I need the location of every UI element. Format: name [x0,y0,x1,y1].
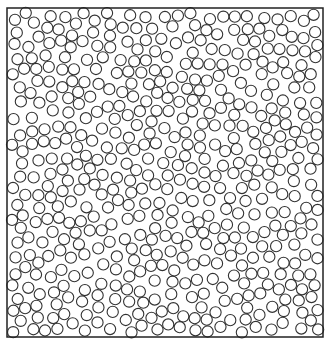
disk [28,172,39,183]
disk [167,21,178,32]
figure-container [0,0,331,348]
disk [234,99,245,110]
disk [129,144,140,155]
disk [267,155,278,166]
disk [217,282,228,293]
disk [12,199,23,210]
disk [47,105,58,116]
disk [305,163,316,174]
disk [23,232,34,243]
disk [191,274,202,285]
disk [289,239,300,250]
disk [156,33,167,44]
disk [8,114,19,125]
disk [198,288,209,299]
disk [146,312,157,323]
disk [248,126,259,137]
disk [11,27,22,38]
disk [267,301,278,312]
disk [218,11,229,22]
disk [309,27,320,38]
disk [293,152,304,163]
disk [96,225,107,236]
disk [26,53,37,64]
disk [101,142,112,153]
disk [7,182,18,193]
disk [174,174,185,185]
disk [237,120,248,131]
disk [312,305,323,316]
disk [149,65,160,76]
disk [217,160,228,171]
disk [65,196,76,207]
disk [280,294,291,305]
disk [152,324,163,335]
disk [162,92,173,103]
disk [256,68,267,79]
disk [293,295,304,306]
disk [126,187,137,198]
disk [229,24,240,35]
disk [246,102,257,113]
disk [246,155,257,166]
disk [112,195,123,206]
disk [210,170,221,181]
disk [272,14,283,25]
disk [43,61,54,72]
disk [275,269,286,280]
disk [30,269,41,280]
disk [277,317,288,328]
disk [229,232,240,243]
disk [214,243,225,254]
disk [84,225,95,236]
disk [209,223,220,234]
disk [204,59,215,70]
disk [30,216,41,227]
disk [193,217,204,228]
disk [211,258,222,269]
disk [106,219,117,230]
disk [87,27,98,38]
disk [278,57,289,68]
disk [15,315,26,326]
disk [220,145,231,156]
disk [97,52,108,63]
disk [81,309,92,320]
disk [287,45,298,56]
disk [10,252,21,263]
disk [200,238,211,249]
disk [219,45,230,56]
disk [256,193,267,204]
disk [249,179,260,190]
disk [57,82,68,93]
disk [296,60,307,71]
disk [43,250,54,261]
disk [286,31,297,42]
disk [127,91,138,102]
disk [311,97,322,108]
disk [20,189,31,200]
disk [262,43,273,54]
disk [266,207,277,218]
disk [150,223,161,234]
disk [126,243,137,254]
disk [57,64,68,75]
disk [223,93,234,104]
disk [122,213,133,224]
disk [189,20,200,31]
disk [56,35,67,46]
disk [278,257,289,268]
disk [299,46,310,57]
disk [231,144,242,155]
disk [79,249,90,260]
disk [225,250,236,261]
disk-packing-figure [0,0,331,348]
disk [186,106,197,117]
disk [102,101,113,112]
disk [26,112,37,123]
disk [20,303,31,314]
disk [62,175,73,186]
disk [109,113,120,124]
disk [89,15,100,26]
disk [147,23,158,34]
